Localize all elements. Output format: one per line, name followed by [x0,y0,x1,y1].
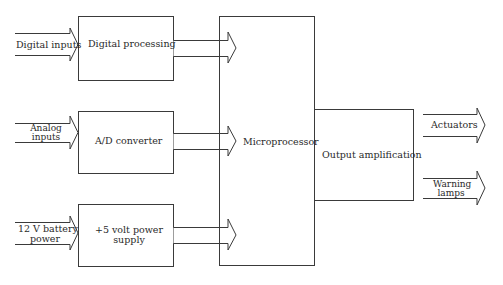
ad-converter-label: A/D converter [95,136,162,146]
warning-lamps-label: Warning lamps [433,180,469,198]
digital-inputs-label: Digital inputs [16,40,81,50]
warning-lamps-label-line2: lamps [433,189,469,198]
power-to-micro-arrow [174,219,237,250]
microprocessor-label: Microprocessor [243,137,319,147]
battery-power-label-line2: power [18,234,72,244]
battery-power-label: 12 V battery power [18,224,72,244]
ad-to-micro-arrow [174,126,237,156]
power-supply-label-line2: supply [93,235,165,245]
digital-to-micro-arrow [174,32,237,63]
digital-processing-label: Digital processing [88,39,176,49]
output-amplification-label: Output amplification [322,150,422,160]
power-supply-label: +5 volt power supply [93,225,165,245]
actuators-label: Actuators [431,120,478,130]
analog-inputs-label-line2: inputs [28,133,64,142]
analog-inputs-label: Analog inputs [28,124,64,142]
